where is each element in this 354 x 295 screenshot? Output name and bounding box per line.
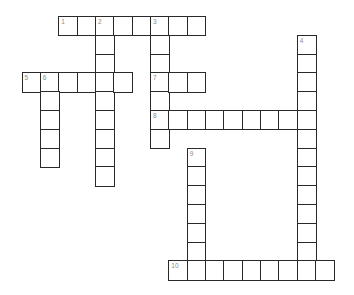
crossword-cell[interactable] <box>40 129 60 149</box>
crossword-cell[interactable] <box>187 16 207 36</box>
crossword-cell[interactable] <box>187 204 207 224</box>
clue-number: 1 <box>61 18 65 25</box>
crossword-cell[interactable] <box>297 204 317 224</box>
crossword-cell[interactable]: 5 <box>22 72 42 92</box>
crossword-cell[interactable] <box>132 16 152 36</box>
crossword-cell[interactable] <box>242 110 262 130</box>
crossword-cell[interactable] <box>260 110 280 130</box>
crossword-cell[interactable] <box>187 110 207 130</box>
crossword-cell[interactable] <box>297 54 317 74</box>
clue-number: 3 <box>153 18 157 25</box>
clue-number: 8 <box>153 112 157 119</box>
crossword-cell[interactable] <box>297 166 317 186</box>
crossword-cell[interactable] <box>95 129 115 149</box>
crossword-cell[interactable]: 9 <box>187 148 207 168</box>
crossword-cell[interactable] <box>297 72 317 92</box>
crossword-cell[interactable] <box>168 72 188 92</box>
clue-number: 4 <box>300 37 304 44</box>
crossword-cell[interactable] <box>278 260 298 280</box>
crossword-cell[interactable]: 7 <box>150 72 170 92</box>
crossword-cell[interactable] <box>297 129 317 149</box>
clue-number: 10 <box>171 262 178 269</box>
crossword-cell[interactable] <box>150 54 170 74</box>
crossword-cell[interactable] <box>58 72 78 92</box>
crossword-cell[interactable]: 8 <box>150 110 170 130</box>
crossword-cell[interactable] <box>187 166 207 186</box>
crossword-cell[interactable] <box>297 148 317 168</box>
crossword-cell[interactable]: 10 <box>168 260 188 280</box>
crossword-cell[interactable] <box>168 16 188 36</box>
crossword-cell[interactable] <box>77 16 97 36</box>
crossword-cell[interactable]: 6 <box>40 72 60 92</box>
crossword-cell[interactable] <box>187 242 207 262</box>
crossword-cell[interactable] <box>187 260 207 280</box>
clue-number: 2 <box>98 18 102 25</box>
crossword-cell[interactable]: 2 <box>95 16 115 36</box>
crossword-cell[interactable] <box>40 110 60 130</box>
crossword-cell[interactable] <box>223 260 243 280</box>
crossword-cell[interactable] <box>40 148 60 168</box>
crossword-cell[interactable] <box>95 110 115 130</box>
clue-number: 5 <box>25 74 29 81</box>
crossword-cell[interactable] <box>77 72 97 92</box>
crossword-cell[interactable] <box>297 91 317 111</box>
crossword-cell[interactable] <box>95 148 115 168</box>
crossword-cell[interactable] <box>95 35 115 55</box>
crossword-cell[interactable] <box>187 72 207 92</box>
crossword-cell[interactable] <box>205 110 225 130</box>
crossword-cell[interactable] <box>113 16 133 36</box>
crossword-cell[interactable] <box>205 260 225 280</box>
crossword-cell[interactable]: 1 <box>58 16 78 36</box>
crossword-cell[interactable] <box>242 260 262 280</box>
clue-number: 9 <box>190 150 194 157</box>
crossword-cell[interactable] <box>297 185 317 205</box>
crossword-cell[interactable] <box>297 110 317 130</box>
crossword-cell[interactable] <box>113 72 133 92</box>
crossword-cell[interactable] <box>297 223 317 243</box>
crossword-cell[interactable] <box>150 35 170 55</box>
crossword-cell[interactable] <box>187 185 207 205</box>
crossword-cell[interactable] <box>40 91 60 111</box>
clue-number: 7 <box>153 74 157 81</box>
crossword-cell[interactable] <box>260 260 280 280</box>
crossword-cell[interactable] <box>150 129 170 149</box>
crossword-cell[interactable]: 4 <box>297 35 317 55</box>
crossword-cell[interactable] <box>168 110 188 130</box>
crossword-cell[interactable] <box>95 91 115 111</box>
crossword-cell[interactable] <box>223 110 243 130</box>
crossword-cell[interactable] <box>95 72 115 92</box>
crossword-cell[interactable] <box>297 260 317 280</box>
crossword-grid: 12378456910 <box>0 0 354 295</box>
crossword-cell[interactable] <box>95 54 115 74</box>
crossword-cell[interactable] <box>315 260 335 280</box>
crossword-cell[interactable] <box>150 91 170 111</box>
crossword-cell[interactable]: 3 <box>150 16 170 36</box>
crossword-cell[interactable] <box>187 223 207 243</box>
crossword-cell[interactable] <box>297 242 317 262</box>
crossword-cell[interactable] <box>95 166 115 186</box>
clue-number: 6 <box>43 74 47 81</box>
crossword-cell[interactable] <box>278 110 298 130</box>
